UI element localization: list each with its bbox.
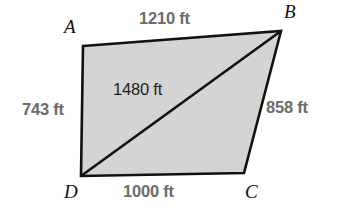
side-label-ad: 743 ft xyxy=(22,101,64,118)
side-label-dc: 1000 ft xyxy=(123,183,174,200)
vertex-label-d: D xyxy=(64,182,78,201)
vertex-label-a: A xyxy=(64,17,76,36)
vertex-label-b: B xyxy=(284,2,296,21)
vertex-label-c: C xyxy=(245,182,258,201)
side-label-bc: 858 ft xyxy=(266,99,308,116)
geometry-figure: 1210 ft 858 ft 1000 ft 743 ft 1480 ft A … xyxy=(0,0,338,215)
side-label-ab: 1210 ft xyxy=(139,10,190,27)
diagonal-label-db: 1480 ft xyxy=(113,81,162,98)
